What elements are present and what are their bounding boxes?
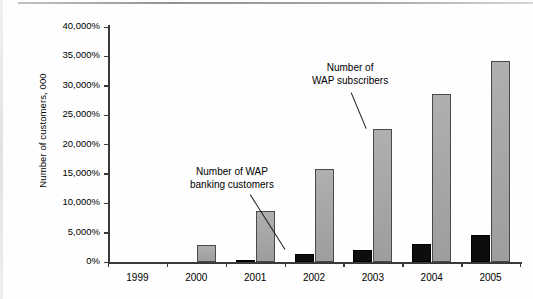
annotation-banking-line2: banking customers	[190, 179, 274, 192]
x-tick-mark	[285, 262, 286, 267]
bar-2004-subscribers	[432, 94, 451, 262]
x-tick-label-2000: 2000	[166, 272, 226, 283]
y-tick-label: 20,000%	[62, 138, 100, 149]
y-tick-label: 25,000%	[62, 108, 100, 119]
annotation-subscribers-line2: WAP subscribers	[312, 75, 388, 88]
x-tick-mark	[167, 262, 168, 267]
x-tick-mark	[461, 262, 462, 267]
annotation-wap-banking-customers: Number of WAP banking customers	[190, 166, 274, 191]
y-tick-label: 15,000%	[62, 167, 100, 178]
x-tick-label-2002: 2002	[284, 272, 344, 283]
annotation-subscribers-line1: Number of	[312, 62, 388, 75]
scan-top-artifact	[18, 2, 533, 4]
x-tick-mark	[520, 262, 521, 267]
x-tick-mark	[108, 262, 109, 267]
x-tick-label-2004: 2004	[402, 272, 462, 283]
y-axis-title: Number of customers, 000	[37, 31, 48, 231]
y-tick-label: 0%	[86, 255, 100, 266]
x-tick-label-1999: 1999	[107, 272, 167, 283]
y-tick-label: 30,000%	[62, 79, 100, 90]
bar-2002-subscribers	[315, 169, 334, 262]
scan-edge-artifact	[0, 0, 3, 299]
annotation-banking-line1: Number of WAP	[190, 166, 274, 179]
x-tick-mark	[343, 262, 344, 267]
bar-2003-subscribers	[373, 129, 392, 262]
annotation-wap-subscribers: Number of WAP subscribers	[312, 62, 388, 87]
x-axis-line	[108, 262, 522, 264]
y-tick-label: 10,000%	[62, 196, 100, 207]
x-tick-label-2001: 2001	[225, 272, 285, 283]
bar-2002-banking-customers	[295, 254, 314, 262]
bar-2000-subscribers	[197, 245, 216, 262]
bar-2001-banking-customers	[236, 260, 255, 262]
x-tick-mark	[226, 262, 227, 267]
bar-2004-banking-customers	[412, 244, 431, 262]
x-tick-label-2003: 2003	[343, 272, 403, 283]
x-tick-label-2005: 2005	[461, 272, 521, 283]
x-tick-mark	[402, 262, 403, 267]
y-tick-label: 40,000%	[62, 20, 100, 31]
bar-2005-banking-customers	[471, 235, 490, 262]
y-tick-label: 35,000%	[62, 49, 100, 60]
bar-2003-banking-customers	[353, 250, 372, 262]
chart-figure: Number of customers, 000 0%5,000%10,000%…	[0, 0, 533, 299]
bar-2005-subscribers	[491, 61, 510, 262]
y-tick-label: 5,000%	[68, 226, 100, 237]
